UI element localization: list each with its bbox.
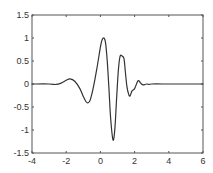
data-series: [32, 38, 203, 140]
x-tick-label: 4: [166, 156, 171, 166]
y-tick-label: 1.5: [16, 10, 29, 20]
x-tick-label: -4: [28, 156, 36, 166]
y-tick-label: 0: [24, 79, 29, 89]
line-chart: -4-20246 1.510.50-0.5-1-1.5: [0, 0, 213, 173]
y-tick-label: 1: [24, 33, 29, 43]
x-tick-label: 0: [98, 156, 103, 166]
x-tick-label: 2: [132, 156, 137, 166]
series-line-wavelet: [32, 38, 203, 140]
x-tick-label: 6: [200, 156, 205, 166]
y-tick-label: -0.5: [13, 102, 29, 112]
y-tick-label: -1.5: [13, 148, 29, 158]
y-tick-label: 0.5: [16, 56, 29, 66]
y-tick-labels: 1.510.50-0.5-1-1.5: [13, 10, 29, 158]
x-tick-label: -2: [62, 156, 70, 166]
chart: -4-20246 1.510.50-0.5-1-1.5: [0, 0, 213, 173]
x-tick-labels: -4-20246: [28, 156, 206, 166]
y-tick-label: -1: [21, 125, 29, 135]
